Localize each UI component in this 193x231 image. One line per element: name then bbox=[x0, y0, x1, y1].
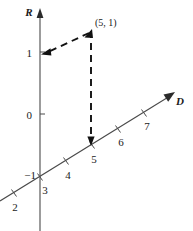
d-axis-tick-label-5: 5 bbox=[91, 153, 97, 165]
d-axis-tick-label-2: 2 bbox=[12, 201, 18, 213]
d-axis-arrowhead-icon bbox=[164, 92, 176, 102]
r-axis-tick-label-minus1: −1 bbox=[24, 169, 36, 181]
point-label: (5, 1) bbox=[95, 17, 117, 29]
down-arrow-icon bbox=[87, 137, 94, 147]
coordinate-diagram: R D 1 0 −1 2 3 4 5 6 7 (5, 1) bbox=[0, 0, 193, 231]
d-axis-line bbox=[0, 96, 170, 201]
projection-to-r-axis-group bbox=[41, 33, 89, 56]
r-axis-label: R bbox=[24, 6, 32, 18]
r-axis-group bbox=[37, 8, 45, 231]
r-axis-tick-label-1: 1 bbox=[27, 47, 33, 59]
projection-to-d-axis-group bbox=[85, 29, 95, 146]
d-axis-tick-label-6: 6 bbox=[118, 136, 124, 148]
r-axis-arrowhead-icon bbox=[37, 8, 44, 18]
d-axis-tick-label-4: 4 bbox=[65, 169, 71, 181]
projection-to-r-axis-line bbox=[48, 33, 89, 52]
d-axis-label: D bbox=[175, 95, 184, 107]
d-axis-tick-label-3: 3 bbox=[42, 184, 48, 196]
diagram-canvas: R D 1 0 −1 2 3 4 5 6 7 (5, 1) bbox=[0, 0, 193, 231]
r-axis-tick-label-0: 0 bbox=[27, 109, 33, 121]
d-axis-tick-label-7: 7 bbox=[144, 120, 150, 132]
